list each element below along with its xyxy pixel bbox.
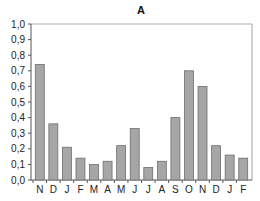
bar [157, 161, 166, 180]
x-tick-label: O [185, 184, 193, 195]
x-tick-label: D [50, 184, 57, 195]
bar [239, 158, 248, 180]
y-tick-label: 0,5 [11, 97, 25, 108]
y-tick-label: 0,6 [11, 81, 25, 92]
x-tick-label: M [117, 184, 125, 195]
bar [49, 124, 58, 180]
y-tick-label: 0,0 [11, 175, 25, 186]
bar [35, 65, 44, 180]
y-axis: 0,00,10,20,30,40,50,60,70,80,91,0 [11, 19, 31, 186]
x-axis: NDJFMAMJJASONDJF [33, 180, 246, 195]
x-tick-label: J [227, 184, 232, 195]
x-tick-label: J [146, 184, 151, 195]
y-tick-label: 0,7 [11, 65, 25, 76]
x-tick-label: J [64, 184, 69, 195]
x-tick-label: N [199, 184, 206, 195]
y-tick-label: 0,1 [11, 159, 25, 170]
x-tick-label: A [104, 184, 111, 195]
y-tick-label: 0,3 [11, 128, 25, 139]
bar [130, 129, 139, 180]
bar [144, 168, 153, 180]
y-tick-label: 0,2 [11, 143, 25, 154]
x-tick-label: F [77, 184, 83, 195]
bar [103, 161, 112, 180]
x-tick-label: D [212, 184, 219, 195]
x-tick-label: S [172, 184, 179, 195]
x-tick-label: N [36, 184, 43, 195]
y-tick-label: 0,8 [11, 50, 25, 61]
y-tick-label: 1,0 [11, 19, 25, 30]
bar [184, 71, 193, 180]
bar [76, 158, 85, 180]
bar [171, 118, 180, 180]
x-tick-label: A [159, 184, 166, 195]
x-tick-label: J [132, 184, 137, 195]
y-tick-label: 0,4 [11, 112, 25, 123]
bar [198, 86, 207, 180]
x-tick-label: M [90, 184, 98, 195]
bar [62, 147, 71, 180]
bars [35, 65, 247, 180]
chart-title: A [137, 4, 145, 16]
bar-chart: A 0,00,10,20,30,40,50,60,70,80,91,0 NDJF… [0, 0, 260, 201]
bar [90, 164, 99, 180]
y-tick-label: 0,9 [11, 34, 25, 45]
bar [117, 146, 126, 180]
bar [225, 155, 234, 180]
x-tick-label: F [240, 184, 246, 195]
bar [212, 146, 221, 180]
